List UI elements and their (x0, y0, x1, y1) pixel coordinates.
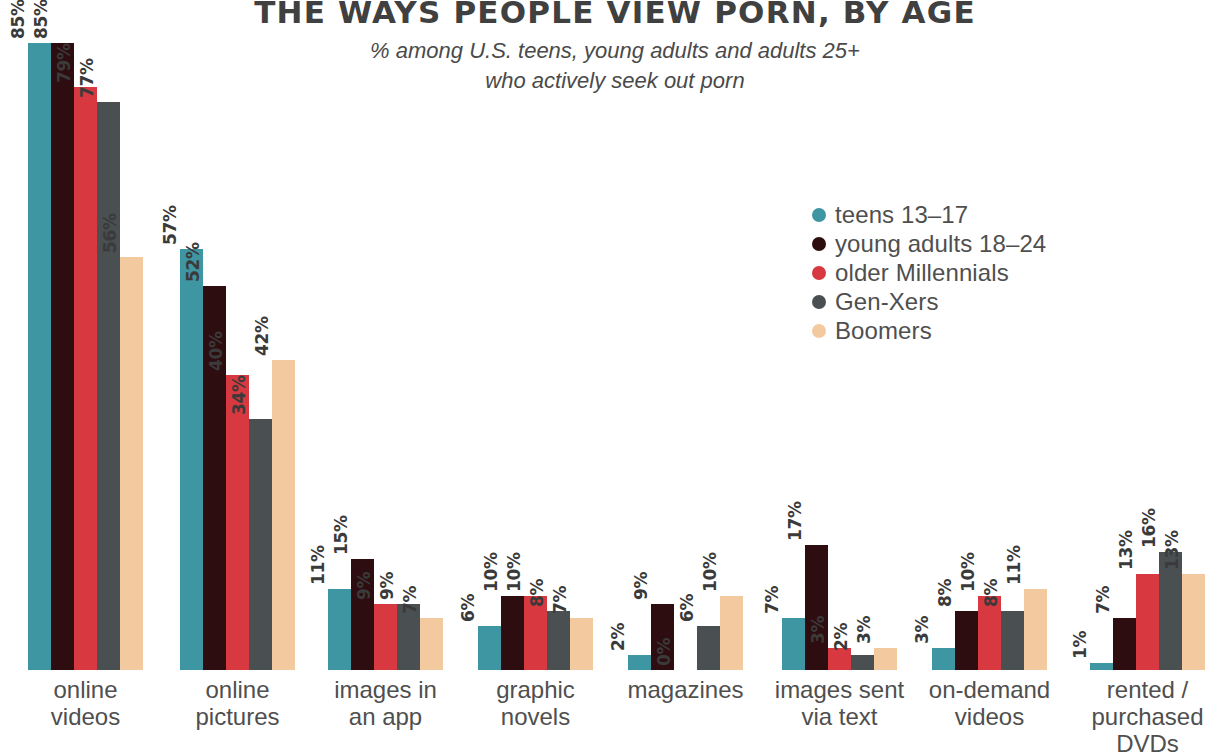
bar-value-label: 40% (206, 331, 226, 371)
bar[interactable]: 77% (97, 102, 120, 670)
category-label-line: rented / (1063, 676, 1230, 703)
legend-label: young adults 18–24 (835, 230, 1046, 258)
bar[interactable]: 10% (501, 596, 524, 670)
bar[interactable]: 13% (1136, 574, 1159, 670)
bar-value-label: 8% (527, 579, 547, 607)
bar-value-label: 15% (331, 516, 351, 556)
bar[interactable]: 8% (547, 611, 570, 670)
bar[interactable]: 17% (805, 545, 828, 670)
bar-value-label: 85% (8, 0, 28, 39)
legend-item[interactable]: Boomers (812, 316, 1046, 345)
category-label: magazines (601, 676, 771, 703)
bar[interactable]: 85% (28, 43, 51, 670)
bar[interactable]: 2% (851, 655, 874, 670)
category-label: images inan app (301, 676, 471, 730)
bar-value-label: 6% (677, 593, 697, 621)
category-label-line: images in (301, 676, 471, 703)
bar[interactable]: 34% (249, 419, 272, 670)
bar[interactable]: 8% (955, 611, 978, 670)
bar[interactable]: 57% (180, 249, 203, 670)
bar[interactable]: 42% (272, 360, 295, 670)
bar[interactable]: 1% (1090, 663, 1113, 670)
bar[interactable]: 7% (1113, 618, 1136, 670)
bar[interactable]: 6% (697, 626, 720, 670)
category-label-line: online (153, 676, 323, 703)
bar-value-label: 3% (912, 616, 932, 644)
bar-value-label: 42% (252, 316, 272, 356)
legend-item[interactable]: teens 13–17 (812, 200, 1046, 229)
bar[interactable]: 11% (328, 589, 351, 670)
bar-value-label: 9% (377, 571, 397, 599)
bar-value-label: 56% (100, 213, 120, 253)
bar[interactable]: 7% (570, 618, 593, 670)
bar-value-label: 16% (1139, 508, 1159, 548)
bar[interactable]: 2% (628, 655, 651, 670)
bar[interactable]: 7% (420, 618, 443, 670)
category-label: onlinepictures (153, 676, 323, 730)
bar[interactable]: 40% (226, 375, 249, 670)
legend-swatch-icon (812, 237, 826, 251)
bar[interactable]: 9% (374, 604, 397, 670)
bar-value-label: 77% (77, 58, 97, 98)
bar[interactable]: 79% (74, 87, 97, 670)
bar-value-label: 3% (854, 616, 874, 644)
bar-value-label: 79% (54, 43, 74, 83)
category-label: onlinevideos (1, 676, 171, 730)
bar-value-label: 7% (1093, 586, 1113, 614)
bar-value-label: 2% (831, 623, 851, 651)
category-label: images sentvia text (755, 676, 925, 730)
bar-value-label: 10% (700, 552, 720, 592)
bar-value-label: 7% (762, 586, 782, 614)
bar[interactable]: 13% (1182, 574, 1205, 670)
bar-value-label: 10% (481, 552, 501, 592)
bar-value-label: 11% (1004, 545, 1024, 585)
bar[interactable]: 3% (874, 648, 897, 670)
bar[interactable]: 10% (978, 596, 1001, 670)
bar-value-label: 8% (981, 579, 1001, 607)
category-label: on-demandvideos (905, 676, 1075, 730)
bar[interactable]: 10% (720, 596, 743, 670)
bar[interactable]: 3% (932, 648, 955, 670)
bar-value-label: 10% (958, 552, 978, 592)
bar-value-label: 6% (458, 593, 478, 621)
legend-item[interactable]: young adults 18–24 (812, 229, 1046, 258)
legend-item[interactable]: Gen-Xers (812, 287, 1046, 316)
bar-value-label: 17% (785, 501, 805, 541)
category-label-line: an app (301, 703, 471, 730)
category-label-line: novels (451, 703, 621, 730)
legend-swatch-icon (812, 208, 826, 222)
bar-value-label: 52% (183, 242, 203, 282)
bar[interactable]: 11% (1024, 589, 1047, 670)
bar-value-label: 2% (608, 623, 628, 651)
bar-value-label: 11% (308, 545, 328, 585)
category-label-line: DVDs (1063, 730, 1230, 756)
bar-value-label: 13% (1162, 530, 1182, 570)
bar[interactable]: 8% (1001, 611, 1024, 670)
bar-value-label: 8% (935, 579, 955, 607)
bar-value-label: 1% (1070, 630, 1090, 658)
bar[interactable]: 56% (120, 257, 143, 670)
bar-value-label: 3% (808, 616, 828, 644)
bar-value-label: 10% (504, 552, 524, 592)
bar[interactable]: 3% (828, 648, 851, 670)
legend-label: teens 13–17 (835, 201, 968, 229)
bar[interactable]: 6% (478, 626, 501, 670)
legend-item[interactable]: older Millennials (812, 258, 1046, 287)
bar[interactable]: 10% (524, 596, 547, 670)
bar-value-label: 9% (631, 571, 651, 599)
chart-legend: teens 13–17young adults 18–24older Mille… (812, 200, 1046, 345)
legend-swatch-icon (812, 295, 826, 309)
category-label-line: videos (905, 703, 1075, 730)
bar[interactable]: 85% (51, 43, 74, 670)
category-label-line: online (1, 676, 171, 703)
bar-value-label: 34% (229, 375, 249, 415)
bar-value-label: 0% (654, 638, 674, 666)
category-label-line: videos (1, 703, 171, 730)
legend-label: Boomers (835, 317, 932, 345)
category-label-line: on-demand (905, 676, 1075, 703)
category-label-line: via text (755, 703, 925, 730)
category-label: rented /purchasedDVDs (1063, 676, 1230, 756)
category-label-line: images sent (755, 676, 925, 703)
bar[interactable]: 7% (782, 618, 805, 670)
category-label-line: graphic (451, 676, 621, 703)
